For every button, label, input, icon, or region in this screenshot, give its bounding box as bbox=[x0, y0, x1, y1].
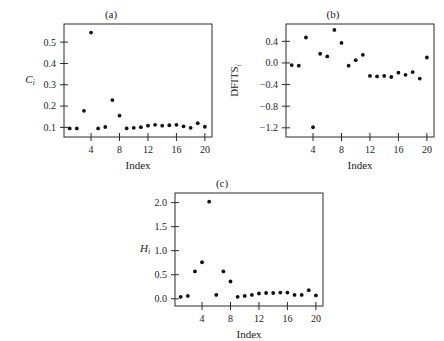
data-point bbox=[96, 127, 100, 131]
data-point bbox=[368, 74, 372, 78]
data-point bbox=[203, 125, 207, 129]
y-tick-label: 0.5 bbox=[155, 269, 168, 280]
data-point bbox=[214, 293, 218, 297]
data-point bbox=[186, 294, 190, 298]
y-tick-label: 0.3 bbox=[44, 79, 57, 90]
figure-container: (a) 0.10.20.30.40.548121620IndexCi (b) 0… bbox=[0, 0, 444, 341]
x-tick-label: 8 bbox=[339, 144, 344, 155]
data-point bbox=[425, 56, 429, 60]
data-point bbox=[389, 75, 393, 79]
data-point bbox=[179, 295, 183, 299]
data-point bbox=[325, 55, 329, 59]
data-point bbox=[311, 125, 315, 129]
x-tick-label: 4 bbox=[200, 313, 205, 324]
x-tick-label: 16 bbox=[171, 144, 181, 155]
y-tick-label: −1.2 bbox=[260, 122, 278, 133]
x-tick-label: 12 bbox=[365, 144, 375, 155]
data-point bbox=[354, 58, 358, 62]
data-point bbox=[89, 31, 93, 35]
data-point bbox=[196, 121, 200, 125]
panel-b-plot: 0.40.0−0.4−0.8−1.248121620IndexDFITSi bbox=[222, 0, 444, 172]
y-tick-label: −0.4 bbox=[260, 79, 278, 90]
data-point bbox=[110, 98, 114, 102]
plot-frame bbox=[286, 24, 434, 137]
y-tick-label: −0.8 bbox=[260, 101, 278, 112]
data-point bbox=[118, 114, 122, 118]
data-point bbox=[397, 71, 401, 75]
data-point bbox=[103, 125, 107, 129]
data-point bbox=[257, 292, 261, 296]
data-point bbox=[207, 200, 211, 204]
y-axis-title: Ci bbox=[25, 73, 34, 88]
y-tick-label: 0.2 bbox=[44, 100, 57, 111]
data-point bbox=[221, 269, 225, 273]
data-point bbox=[297, 64, 301, 68]
data-point bbox=[193, 269, 197, 273]
data-point bbox=[404, 73, 408, 77]
data-point bbox=[200, 260, 204, 264]
data-point bbox=[132, 126, 136, 130]
data-point bbox=[167, 123, 171, 127]
panel-c-plot: 0.00.51.01.52.048121620IndexHi bbox=[111, 169, 333, 341]
data-point bbox=[75, 127, 79, 131]
x-tick-label: 8 bbox=[228, 313, 233, 324]
panel-c: (c) 0.00.51.01.52.048121620IndexHi bbox=[111, 169, 333, 341]
x-tick-label: 20 bbox=[422, 144, 432, 155]
data-point bbox=[236, 295, 240, 299]
y-tick-label: 0.5 bbox=[44, 37, 57, 48]
x-tick-label: 4 bbox=[89, 144, 94, 155]
data-point bbox=[278, 291, 282, 295]
data-point bbox=[307, 288, 311, 292]
data-point bbox=[304, 36, 308, 40]
panel-a-plot: 0.10.20.30.40.548121620IndexCi bbox=[0, 0, 222, 172]
data-point bbox=[340, 41, 344, 45]
y-tick-label: 1.0 bbox=[155, 245, 168, 256]
data-point bbox=[229, 280, 233, 284]
y-axis-title: DFITSi bbox=[228, 64, 243, 97]
data-point bbox=[332, 28, 336, 32]
x-tick-label: 16 bbox=[282, 313, 292, 324]
y-tick-label: 0.4 bbox=[44, 58, 57, 69]
x-tick-label: 12 bbox=[254, 313, 264, 324]
panel-b: (b) 0.40.0−0.4−0.8−1.248121620IndexDFITS… bbox=[222, 0, 444, 172]
x-tick-label: 4 bbox=[311, 144, 316, 155]
data-point bbox=[375, 75, 379, 79]
x-axis-title: Index bbox=[347, 159, 373, 171]
data-point bbox=[182, 124, 186, 128]
data-point bbox=[153, 123, 157, 127]
x-tick-label: 20 bbox=[200, 144, 210, 155]
x-tick-label: 20 bbox=[311, 313, 321, 324]
y-tick-label: 2.0 bbox=[155, 197, 168, 208]
y-tick-label: 0.4 bbox=[266, 36, 279, 47]
data-point bbox=[300, 293, 304, 297]
data-point bbox=[125, 127, 129, 131]
x-tick-label: 12 bbox=[143, 144, 153, 155]
data-point bbox=[411, 70, 415, 74]
y-axis-title: Hi bbox=[139, 242, 150, 257]
y-tick-label: 0.0 bbox=[155, 293, 168, 304]
svg-text:DFITSi: DFITSi bbox=[228, 64, 243, 97]
data-point bbox=[318, 52, 322, 56]
data-point bbox=[382, 74, 386, 78]
data-point bbox=[290, 63, 294, 67]
data-point bbox=[361, 53, 365, 57]
data-point bbox=[293, 293, 297, 297]
data-point bbox=[160, 124, 164, 128]
data-point bbox=[139, 125, 143, 129]
y-tick-label: 0.1 bbox=[44, 122, 57, 133]
data-point bbox=[250, 293, 254, 297]
panel-a: (a) 0.10.20.30.40.548121620IndexCi bbox=[0, 0, 222, 172]
data-point bbox=[347, 64, 351, 68]
data-point bbox=[175, 123, 179, 127]
data-point bbox=[314, 294, 318, 298]
data-point bbox=[286, 291, 290, 295]
data-point bbox=[271, 291, 275, 295]
x-axis-title: Index bbox=[236, 328, 262, 340]
data-point bbox=[82, 109, 86, 113]
data-point bbox=[243, 294, 247, 298]
x-tick-label: 8 bbox=[117, 144, 122, 155]
data-point bbox=[146, 124, 150, 128]
data-point bbox=[189, 126, 193, 130]
data-point bbox=[68, 127, 72, 131]
data-point bbox=[264, 291, 268, 295]
